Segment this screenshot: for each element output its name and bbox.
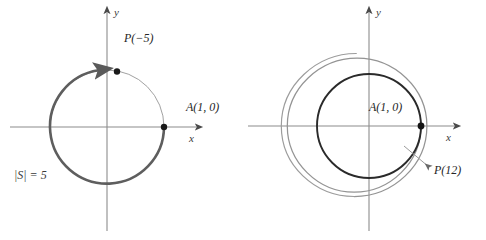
- x-axis-label: x: [446, 131, 451, 143]
- panel-unit-circle-single-wrap: y x A(1, 0) P(−5) |S| = 5: [0, 0, 243, 240]
- right-diagram-svg: [243, 0, 486, 240]
- left-diagram-svg: [0, 0, 243, 240]
- x-axis-label: x: [189, 132, 194, 144]
- y-axis-label: y: [114, 6, 119, 18]
- point-P-dot: [114, 68, 120, 74]
- point-A-dot: [418, 123, 425, 130]
- point-P-label: P(12): [434, 163, 461, 178]
- y-axis-label: y: [376, 6, 381, 18]
- point-A-label: A(1, 0): [369, 100, 402, 115]
- set-magnitude-label: |S| = 5: [14, 168, 47, 183]
- point-P-label: P(−5): [124, 31, 153, 46]
- figure-root: y x A(1, 0) P(−5) |S| = 5: [0, 0, 486, 240]
- panel-unit-circle-multiple-wrap: y x A(1, 0) P(12): [243, 0, 486, 240]
- point-A-dot: [161, 124, 167, 130]
- wrapping-spiral-outer: [281, 54, 356, 197]
- point-A-label: A(1, 0): [186, 100, 219, 115]
